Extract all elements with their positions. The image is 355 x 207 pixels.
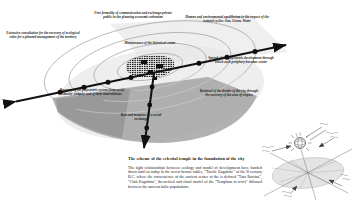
figure-root: Free formality of communication and exch… <box>0 0 355 207</box>
label-spread: Spread of the polycentric development th… <box>205 56 277 65</box>
label-communication: Free formality of communication and exch… <box>90 11 176 20</box>
axis-node-dot <box>253 49 258 54</box>
label-consultation: Extensive consultation for the recovery … <box>5 31 81 40</box>
axis-node-dot <box>144 126 149 131</box>
label-recovery: Recovery of the polycentric system from … <box>59 88 125 97</box>
axis-node-dot <box>106 80 111 85</box>
caption-body: The tight relationships between ecology … <box>128 166 262 190</box>
axis-node-dot <box>197 61 202 66</box>
celestial-temple-inset <box>262 123 352 200</box>
globe-icon <box>289 133 312 152</box>
axis-node-dot <box>147 103 152 108</box>
label-equilibrium: Human and environmental equilibrium in t… <box>183 15 271 24</box>
axis-node-dot <box>129 75 134 80</box>
label-network: Rete and manners of a social exchange <box>115 113 167 122</box>
figure-caption: The scheme of the celestial temple in th… <box>128 156 262 190</box>
caption-title: The scheme of the celestial temple in th… <box>128 156 262 162</box>
label-maintenance: Maintenance of the historical center <box>123 41 178 45</box>
axis-node-dot <box>150 85 155 90</box>
label-retrieval: Retrieval of the border of the city thro… <box>198 89 260 98</box>
